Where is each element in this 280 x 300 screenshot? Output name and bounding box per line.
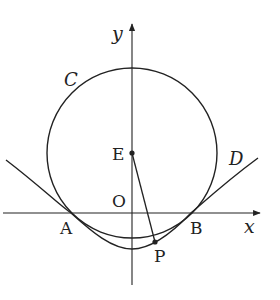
x-axis-label: x: [244, 215, 255, 237]
circle-c-label: C: [64, 69, 78, 90]
point-p: [152, 239, 157, 244]
segment-ep: [132, 153, 155, 242]
point-e: [129, 150, 134, 155]
point-a-label: A: [59, 218, 73, 238]
curve-d-label: D: [228, 148, 244, 169]
geometry-diagram: y x O C D E A B P: [0, 0, 280, 300]
point-p-label: P: [154, 246, 165, 266]
origin-label: O: [112, 191, 126, 211]
point-e-label: E: [112, 144, 124, 164]
point-b-label: B: [190, 218, 203, 238]
y-axis-label: y: [111, 22, 123, 44]
